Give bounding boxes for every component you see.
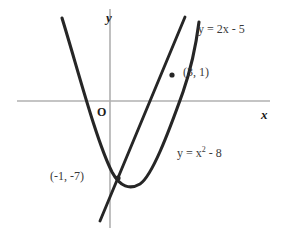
x-axis-label: x bbox=[261, 108, 268, 121]
y-axis-label: y bbox=[106, 11, 112, 24]
line-equation-label: y = 2x - 5 bbox=[198, 23, 245, 35]
point-label-a: (3, 1) bbox=[183, 66, 209, 78]
parabola-equation-tail: - 8 bbox=[206, 146, 222, 160]
parabola-curve bbox=[62, 18, 199, 187]
origin-label: O bbox=[97, 106, 106, 118]
point-label-b: (-1, -7) bbox=[50, 170, 84, 182]
parabola-equation-label: y = x2 - 8 bbox=[177, 146, 222, 159]
graph-figure: y x O y = 2x - 5 y = x2 - 8 (3, 1) (-1, … bbox=[0, 0, 282, 233]
parabola-equation-base: y = x bbox=[177, 146, 202, 160]
intersection-marker-a bbox=[169, 72, 174, 77]
intersection-marker-b bbox=[115, 175, 120, 180]
